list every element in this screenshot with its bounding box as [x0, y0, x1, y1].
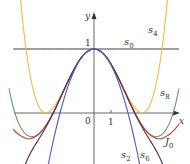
y-axis-arrow-icon — [92, 12, 97, 19]
label-s4: s4 — [148, 24, 158, 38]
origin-label: 0 — [85, 116, 91, 126]
label-s8: s8 — [160, 87, 170, 101]
label-J0: J0 — [163, 136, 173, 150]
x-tick-label-1: 1 — [108, 117, 114, 127]
y-tick-label-1: 1 — [85, 38, 91, 48]
label-s2: s2 — [121, 149, 131, 163]
label-s6: s6 — [140, 149, 150, 163]
y-axis-label: y — [84, 11, 91, 21]
x-axis-label: x — [179, 116, 184, 126]
taylor-approximation-figure: y x 1 0 1 s0 s4 s8 J0 s2 s6 — [0, 0, 190, 164]
label-s0: s0 — [124, 36, 134, 50]
